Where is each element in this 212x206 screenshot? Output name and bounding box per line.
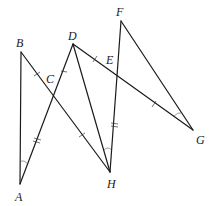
label-E: E [105, 53, 114, 67]
angle-mark-H [104, 148, 112, 150]
label-H: H [106, 177, 117, 191]
segment-FH [110, 21, 121, 172]
label-G: G [196, 133, 205, 147]
double-tick-EH [111, 123, 118, 127]
segment-DH [73, 44, 110, 172]
label-C: C [46, 72, 55, 86]
segment-BH [21, 52, 110, 172]
label-D: D [67, 29, 77, 43]
label-F: F [115, 5, 124, 19]
segment-FG [121, 21, 193, 130]
geometry-diagram: B D F E C G H A [0, 0, 212, 206]
segment-DG [73, 44, 193, 130]
segment-AD [20, 44, 73, 184]
label-A: A [14, 190, 23, 204]
label-B: B [16, 36, 24, 50]
angle-mark-G [174, 113, 181, 116]
segment-AB [20, 52, 21, 184]
angle-mark-A [20, 161, 27, 164]
